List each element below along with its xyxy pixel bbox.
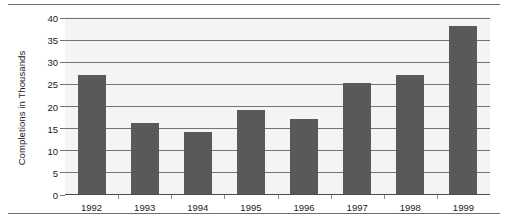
bar-1999 bbox=[449, 26, 477, 194]
y-axis-tick-mark bbox=[60, 40, 65, 41]
y-axis-tick-label: 0 bbox=[53, 190, 58, 201]
plot-area: 0510152025303540199219931994199519961997… bbox=[65, 17, 490, 195]
x-axis-label-1999: 1999 bbox=[453, 202, 474, 213]
y-axis-tick-label: 25 bbox=[47, 79, 58, 90]
x-axis-label-1995: 1995 bbox=[240, 202, 261, 213]
y-axis-tick-mark bbox=[60, 106, 65, 107]
gridline bbox=[65, 150, 490, 151]
x-axis-tick-mark bbox=[331, 195, 332, 199]
bar-1995 bbox=[237, 110, 265, 194]
gridline bbox=[65, 106, 490, 107]
y-axis-tick-mark bbox=[60, 150, 65, 151]
gridline bbox=[65, 128, 490, 129]
y-axis-tick-label: 10 bbox=[47, 145, 58, 156]
top-divider-rule bbox=[8, 4, 500, 5]
gridline bbox=[65, 62, 490, 63]
x-axis-tick-mark bbox=[118, 195, 119, 199]
x-axis-label-1992: 1992 bbox=[81, 202, 102, 213]
y-axis-tick-mark bbox=[60, 195, 65, 196]
y-axis-tick-mark bbox=[60, 62, 65, 63]
x-axis-tick-mark bbox=[171, 195, 172, 199]
x-axis-label-1994: 1994 bbox=[187, 202, 208, 213]
x-axis-label-1998: 1998 bbox=[400, 202, 421, 213]
bar-chart-figure: Completions in Thousands 051015202530354… bbox=[0, 0, 508, 222]
bar-1998 bbox=[396, 75, 424, 194]
bar-1994 bbox=[184, 132, 212, 194]
y-axis-tick-label: 40 bbox=[47, 13, 58, 24]
y-axis-title: Completions in Thousands bbox=[15, 13, 29, 203]
y-axis-tick-label: 30 bbox=[47, 57, 58, 68]
y-axis-tick-mark bbox=[60, 18, 65, 19]
bar-1997 bbox=[343, 83, 371, 194]
y-axis-tick-label: 20 bbox=[47, 101, 58, 112]
y-axis-tick-label: 5 bbox=[53, 167, 58, 178]
x-axis-label-1993: 1993 bbox=[134, 202, 155, 213]
x-axis-tick-mark bbox=[224, 195, 225, 199]
x-axis-label-1997: 1997 bbox=[347, 202, 368, 213]
gridline bbox=[65, 18, 490, 19]
bar-1996 bbox=[290, 119, 318, 194]
gridline bbox=[65, 84, 490, 85]
y-axis-tick-mark bbox=[60, 84, 65, 85]
x-axis-label-1996: 1996 bbox=[293, 202, 314, 213]
plot-inner: 0510152025303540199219931994199519961997… bbox=[65, 17, 490, 195]
bar-1992 bbox=[78, 75, 106, 194]
y-axis-tick-label: 15 bbox=[47, 123, 58, 134]
gridline bbox=[65, 172, 490, 173]
bar-1993 bbox=[131, 123, 159, 194]
x-axis-tick-mark bbox=[437, 195, 438, 199]
x-axis-tick-mark bbox=[278, 195, 279, 199]
bottom-divider-rule bbox=[8, 213, 500, 214]
y-axis-tick-label: 35 bbox=[47, 35, 58, 46]
gridline bbox=[65, 40, 490, 41]
x-axis-tick-mark bbox=[384, 195, 385, 199]
y-axis-tick-mark bbox=[60, 172, 65, 173]
y-axis-tick-mark bbox=[60, 128, 65, 129]
